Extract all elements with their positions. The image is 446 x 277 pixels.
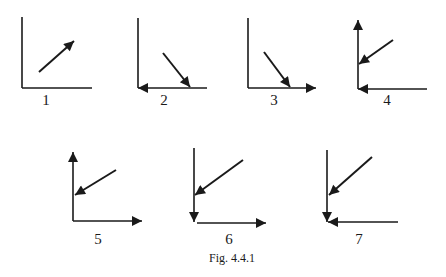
panel-5-diagram [73, 152, 142, 221]
figure-canvas [0, 0, 446, 277]
diagonal-arrow-icon [39, 41, 74, 72]
panel-2-label: 2 [160, 93, 168, 108]
panel-3-diagram [248, 18, 316, 88]
panel-6-diagram [194, 148, 266, 223]
panel-6-label: 6 [225, 232, 233, 247]
panel-5-label: 5 [94, 232, 102, 247]
diagonal-arrow-icon [195, 160, 243, 195]
panel-1-label: 1 [42, 93, 50, 108]
panel-7-diagram [327, 150, 398, 222]
diagonal-arrow-icon [264, 52, 290, 87]
panel-4-diagram [358, 20, 427, 89]
figure-caption: Fig. 4.4.1 [209, 252, 255, 264]
panel-4-label: 4 [383, 93, 391, 108]
panel-7-label: 7 [355, 232, 363, 247]
diagonal-arrow-icon [329, 157, 372, 195]
panel-2-diagram [138, 18, 207, 88]
panel-1-diagram [22, 17, 92, 88]
diagonal-arrow-icon [359, 40, 393, 64]
diagonal-arrow-icon [163, 53, 190, 87]
diagonal-arrow-icon [75, 170, 116, 195]
panel-3-label: 3 [270, 93, 278, 108]
